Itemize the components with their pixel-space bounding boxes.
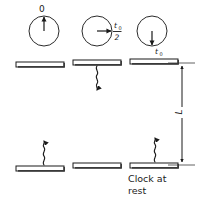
clock-half-numerator-subscript: 0 bbox=[119, 25, 122, 31]
dimension-label-L: L bbox=[174, 109, 184, 114]
light-pulse-up-right-icon bbox=[154, 138, 156, 162]
light-clock-diagram: 0 t 0 2 t 0 bbox=[0, 0, 205, 200]
clock-half-group: t 0 2 bbox=[82, 16, 122, 46]
length-dimension-group: L bbox=[168, 63, 195, 165]
bottom-mirror-mid bbox=[73, 163, 122, 169]
physics-figure-canvas: 0 t 0 2 t 0 bbox=[0, 0, 205, 200]
light-pulse-up-left-icon bbox=[43, 141, 45, 165]
top-mirror-right bbox=[130, 59, 179, 65]
top-mirror-left bbox=[16, 62, 65, 68]
clock-full-group: t 0 bbox=[137, 16, 167, 57]
clock-half-numerator: t bbox=[114, 21, 118, 30]
caption-clock-at-rest: Clock at rest bbox=[128, 173, 167, 196]
light-pulse-down-icon bbox=[96, 66, 98, 90]
clock-start-label: 0 bbox=[39, 4, 45, 14]
clock-start-group: 0 bbox=[29, 4, 59, 46]
clock-half-denominator: 2 bbox=[115, 33, 120, 42]
clock-half-fraction-label: t 0 2 bbox=[113, 21, 122, 42]
bottom-mirror-left bbox=[16, 166, 65, 172]
clock-full-label: t bbox=[155, 47, 159, 56]
clock-full-label-subscript: 0 bbox=[160, 51, 163, 57]
caption-line-2: rest bbox=[128, 185, 146, 196]
top-mirror-mid bbox=[73, 60, 122, 66]
bottom-mirror-right bbox=[130, 163, 179, 169]
caption-line-1: Clock at bbox=[128, 173, 167, 184]
